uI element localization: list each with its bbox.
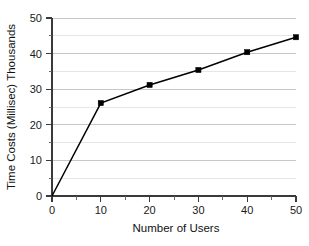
y-tick-label: 10 <box>30 154 42 166</box>
x-tick-label: 0 <box>49 204 55 216</box>
x-axis-title: Number of Users <box>133 222 220 234</box>
x-axis-tick-labels: 0 10 20 30 40 50 <box>49 204 302 216</box>
y-axis-title: Time Costs (Millisec) Thousands <box>5 24 17 190</box>
data-point-marker <box>147 82 152 87</box>
x-tick-label: 10 <box>95 204 107 216</box>
y-tick-label: 30 <box>30 83 42 95</box>
grid-major-horizontal <box>52 18 296 160</box>
data-point-marker <box>196 67 201 72</box>
y-tick-label: 0 <box>36 190 42 202</box>
grid-minor-horizontal <box>52 36 296 178</box>
y-axis-tick-labels: 0 10 20 30 40 50 <box>30 12 42 202</box>
y-tick-label: 40 <box>30 48 42 60</box>
x-tick-label: 50 <box>290 204 302 216</box>
y-tick-label: 50 <box>30 12 42 24</box>
chart-container: 0 10 20 30 40 50 0 10 20 30 40 50 Number… <box>0 0 309 246</box>
y-tick-label: 20 <box>30 119 42 131</box>
x-tick-label: 20 <box>143 204 155 216</box>
x-tick-label: 30 <box>192 204 204 216</box>
series-line-time-costs <box>52 37 296 196</box>
x-tick-label: 40 <box>241 204 253 216</box>
data-point-marker <box>245 50 250 55</box>
data-point-marker <box>293 35 298 40</box>
data-point-marker <box>98 100 103 105</box>
line-chart: 0 10 20 30 40 50 0 10 20 30 40 50 Number… <box>0 0 309 246</box>
